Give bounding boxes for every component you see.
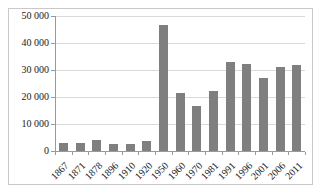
bar — [292, 65, 301, 151]
bar — [109, 144, 118, 151]
y-axis-tick — [51, 43, 55, 44]
x-axis-tick — [105, 152, 106, 155]
x-axis-tick — [272, 152, 273, 155]
bar — [242, 64, 251, 151]
y-axis-tick — [51, 16, 55, 17]
bar — [226, 62, 235, 151]
y-tick-label: 10 000 — [0, 118, 49, 130]
x-axis-tick — [88, 152, 89, 155]
bar — [126, 144, 135, 151]
plot-area: 010 00020 00030 00040 00050 000 18671871… — [0, 0, 322, 192]
y-axis-tick — [51, 70, 55, 71]
y-axis-tick — [51, 124, 55, 125]
x-axis-tick — [172, 152, 173, 155]
bar — [92, 140, 101, 151]
y-tick-label: 20 000 — [0, 91, 49, 103]
bar — [159, 25, 168, 151]
x-axis-tick — [255, 152, 256, 155]
bar — [259, 78, 268, 151]
x-axis-tick — [122, 152, 123, 155]
bar — [176, 93, 185, 151]
x-axis-tick — [138, 152, 139, 155]
x-axis-tick — [238, 152, 239, 155]
x-axis-line — [55, 151, 305, 152]
gridline — [55, 43, 305, 44]
y-axis-tick — [51, 97, 55, 98]
x-axis-tick — [72, 152, 73, 155]
x-axis-tick — [55, 152, 56, 155]
y-tick-label: 0 — [0, 145, 49, 157]
x-axis-tick — [205, 152, 206, 155]
x-axis-tick — [222, 152, 223, 155]
gridline — [55, 16, 305, 17]
chart-canvas: 010 00020 00030 00040 00050 000 18671871… — [0, 0, 322, 192]
x-axis-tick — [288, 152, 289, 155]
x-axis-tick — [305, 152, 306, 155]
y-tick-label: 30 000 — [0, 64, 49, 76]
gridline — [55, 70, 305, 71]
bar — [209, 91, 218, 151]
x-axis-tick — [155, 152, 156, 155]
y-tick-label: 40 000 — [0, 37, 49, 49]
bar — [142, 141, 151, 151]
bar — [276, 67, 285, 151]
y-tick-label: 50 000 — [0, 10, 49, 22]
x-axis-tick — [188, 152, 189, 155]
y-axis-line — [55, 16, 56, 152]
bar — [76, 143, 85, 151]
bar — [192, 106, 201, 151]
bar — [59, 143, 68, 151]
